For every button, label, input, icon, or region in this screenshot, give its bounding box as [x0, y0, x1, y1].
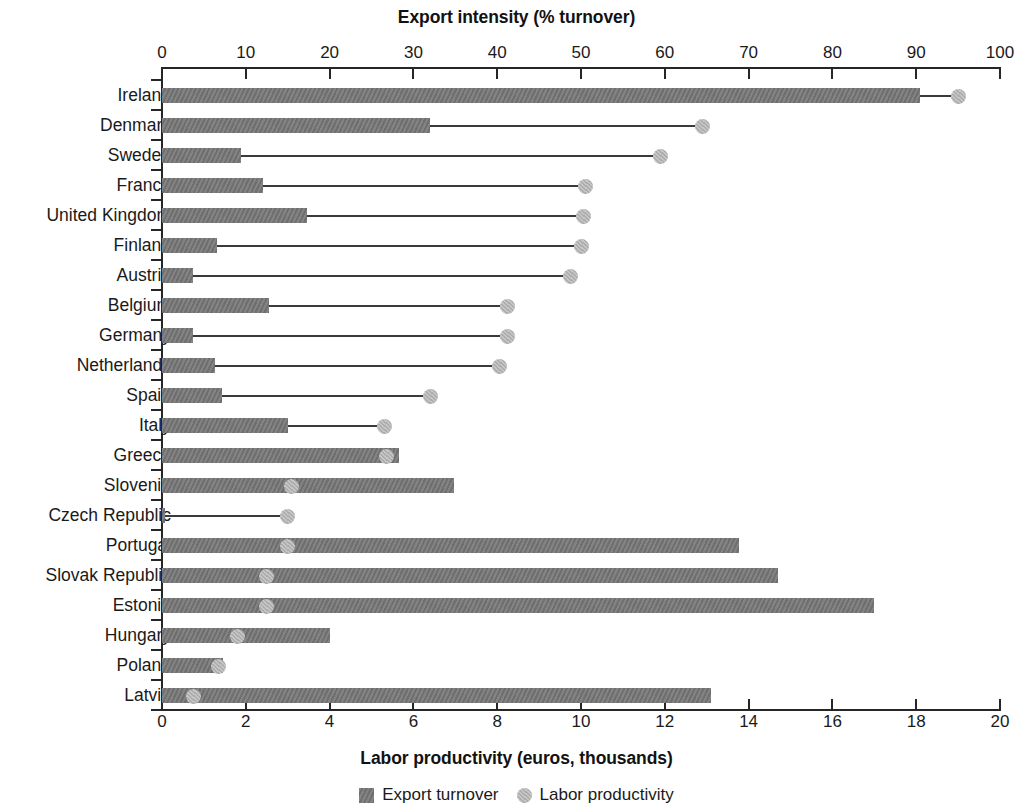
top-axis-tick: [329, 67, 331, 79]
chart-row: Denmark: [0, 110, 1033, 140]
export-turnover-bar: [162, 88, 920, 103]
chart-row: Czech Republic: [0, 500, 1033, 530]
top-axis-tick-label: 30: [383, 43, 443, 63]
top-axis-tick-label: 90: [886, 43, 946, 63]
export-turnover-bar: [162, 148, 241, 163]
top-axis-tick-label: 40: [467, 43, 527, 63]
chart-row: Italy: [0, 410, 1033, 440]
labor-productivity-dot: [500, 299, 515, 314]
connector-stem: [307, 215, 583, 217]
category-label-slovak-republic: Slovak Republic: [46, 564, 171, 586]
top-axis-tick: [748, 67, 750, 79]
export-turnover-bar: [162, 388, 222, 403]
stacked-lollipop-bar-chart: Export intensity (% turnover) 0102030405…: [0, 0, 1033, 812]
bottom-axis-tick-label: 16: [802, 712, 862, 732]
category-label-germany: Germany: [99, 324, 171, 346]
top-axis-title: Export intensity (% turnover): [0, 7, 1033, 28]
top-axis-tick-label: 100: [970, 43, 1030, 63]
labor-productivity-dot: [563, 269, 578, 284]
top-axis-tick: [831, 67, 833, 79]
labor-productivity-dot: [211, 659, 226, 674]
connector-stem: [263, 185, 586, 187]
top-axis-tick-label: 10: [216, 43, 276, 63]
labor-productivity-dot: [653, 149, 668, 164]
export-turnover-bar: [162, 478, 454, 493]
chart-row: Estonia: [0, 590, 1033, 620]
chart-row: Portugal: [0, 530, 1033, 560]
labor-productivity-dot: [280, 509, 295, 524]
labor-productivity-dot: [951, 89, 966, 104]
top-axis-tick: [412, 67, 414, 79]
labor-productivity-dot: [186, 689, 201, 704]
export-turnover-bar: [162, 238, 217, 253]
connector-stem: [430, 125, 702, 127]
chart-row: Austria: [0, 260, 1033, 290]
labor-productivity-dot: [377, 419, 392, 434]
export-turnover-bar: [162, 508, 165, 523]
category-label-czech-republic: Czech Republic: [48, 504, 171, 526]
bottom-axis-tick-label: 14: [719, 712, 779, 732]
chart-row: Spain: [0, 380, 1033, 410]
chart-legend: Export turnoverLabor productivity: [0, 785, 1033, 805]
top-axis-tick: [161, 67, 163, 79]
chart-row: Sweden: [0, 140, 1033, 170]
top-axis-tick: [664, 67, 666, 79]
chart-row: United Kingdom: [0, 200, 1033, 230]
labor-productivity-dot: [574, 239, 589, 254]
category-label-denmark: Denmark: [100, 114, 171, 136]
connector-stem: [215, 365, 500, 367]
bottom-axis-tick-label: 4: [300, 712, 360, 732]
legend-item-labor-productivity: Labor productivity: [517, 785, 674, 805]
chart-row: France: [0, 170, 1033, 200]
chart-row: Ireland: [0, 80, 1033, 110]
export-turnover-bar: [162, 538, 739, 553]
export-turnover-bar: [162, 118, 430, 133]
legend-square-icon: [359, 788, 374, 803]
connector-stem: [217, 245, 581, 247]
chart-row: Slovak Republic: [0, 560, 1033, 590]
connector-stem: [193, 275, 571, 277]
connector-stem: [193, 335, 508, 337]
export-turnover-bar: [162, 358, 215, 373]
bottom-axis-tick-label: 18: [886, 712, 946, 732]
labor-productivity-dot: [259, 599, 274, 614]
connector-stem: [288, 425, 384, 427]
chart-row: Netherlands: [0, 350, 1033, 380]
top-axis-tick-label: 50: [551, 43, 611, 63]
chart-row: Belgium: [0, 290, 1033, 320]
top-axis-tick-label: 80: [802, 43, 862, 63]
labor-productivity-dot: [284, 479, 299, 494]
top-axis-tick: [580, 67, 582, 79]
legend-circle-icon: [517, 788, 532, 803]
export-turnover-bar: [162, 418, 288, 433]
category-label-united-kingdom: United Kingdom: [46, 204, 171, 226]
bottom-axis-tick-label: 6: [383, 712, 443, 732]
chart-row: Hungary: [0, 620, 1033, 650]
labor-productivity-dot: [259, 569, 274, 584]
top-axis-tick: [496, 67, 498, 79]
chart-row: Finland: [0, 230, 1033, 260]
bottom-axis-title: Labor productivity (euros, thousands): [0, 748, 1033, 769]
labor-productivity-dot: [578, 179, 593, 194]
category-label-netherlands: Netherlands: [77, 354, 171, 376]
bottom-axis-tick-label: 0: [132, 712, 192, 732]
legend-item-export-turnover: Export turnover: [359, 785, 498, 805]
chart-row: Germany: [0, 320, 1033, 350]
chart-row: Slovenia: [0, 470, 1033, 500]
chart-row: Poland: [0, 650, 1033, 680]
export-turnover-bar: [162, 448, 399, 463]
category-label-slovenia: Slovenia: [104, 474, 171, 496]
labor-productivity-dot: [230, 629, 245, 644]
chart-row: Latvia: [0, 680, 1033, 710]
labor-productivity-dot: [492, 359, 507, 374]
export-turnover-bar: [162, 628, 330, 643]
labor-productivity-dot: [695, 119, 710, 134]
top-axis-tick-label: 70: [719, 43, 779, 63]
legend-label: Labor productivity: [540, 785, 674, 805]
export-turnover-bar: [162, 328, 193, 343]
top-axis-tick: [999, 67, 1001, 79]
labor-productivity-dot: [379, 449, 394, 464]
bottom-axis-tick-label: 20: [970, 712, 1030, 732]
labor-productivity-dot: [576, 209, 591, 224]
legend-label: Export turnover: [382, 785, 498, 805]
